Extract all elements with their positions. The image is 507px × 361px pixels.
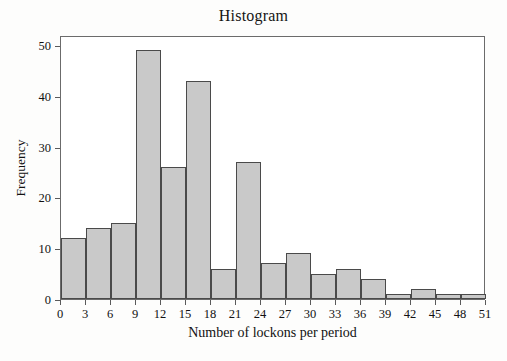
histogram-bar: [111, 223, 136, 299]
x-tick-mark: [185, 300, 186, 305]
x-tick-mark: [85, 300, 86, 305]
x-tick-mark: [110, 300, 111, 305]
plot-frame: [60, 36, 485, 300]
x-tick-label: 27: [279, 307, 292, 322]
x-tick-label: 21: [229, 307, 242, 322]
y-tick-label: 50: [39, 39, 52, 54]
histogram-bar: [136, 50, 161, 299]
histogram-figure: Histogram Frequency 01020304050 03691215…: [0, 0, 507, 361]
x-tick-mark: [160, 300, 161, 305]
x-tick-label: 18: [204, 307, 217, 322]
x-tick-mark: [460, 300, 461, 305]
x-tick-label: 33: [329, 307, 342, 322]
x-tick-mark: [260, 300, 261, 305]
x-tick-mark: [335, 300, 336, 305]
x-tick-label: 48: [454, 307, 467, 322]
x-tick-mark: [410, 300, 411, 305]
histogram-bar: [186, 81, 211, 299]
histogram-bar: [61, 238, 86, 299]
y-tick-label: 20: [39, 191, 52, 206]
x-tick-label: 9: [132, 307, 138, 322]
histogram-bar: [361, 279, 386, 299]
y-tick-label: 40: [39, 89, 52, 104]
x-tick-mark: [285, 300, 286, 305]
x-tick-label: 39: [379, 307, 392, 322]
histogram-bar: [161, 167, 186, 299]
x-tick-mark: [210, 300, 211, 305]
histogram-bar: [311, 274, 336, 299]
y-tick-label: 30: [39, 140, 52, 155]
y-axis: 01020304050: [0, 36, 60, 300]
x-tick-label: 15: [179, 307, 192, 322]
x-tick-mark: [360, 300, 361, 305]
histogram-bar: [86, 228, 111, 299]
x-tick-mark: [310, 300, 311, 305]
y-tick-label: 10: [39, 242, 52, 257]
histogram-bar: [461, 294, 486, 299]
histogram-bar: [261, 263, 286, 299]
x-tick-label: 0: [57, 307, 63, 322]
x-axis: 03691215182124273033363942454851: [60, 300, 485, 324]
x-axis-title: Number of lockons per period: [60, 325, 485, 341]
chart-title: Histogram: [0, 7, 507, 25]
x-tick-label: 45: [429, 307, 442, 322]
x-tick-label: 51: [479, 307, 492, 322]
plot-area: [61, 37, 484, 299]
x-tick-label: 36: [354, 307, 367, 322]
x-tick-mark: [485, 300, 486, 305]
x-tick-label: 24: [254, 307, 267, 322]
x-tick-label: 12: [154, 307, 167, 322]
x-tick-label: 3: [82, 307, 88, 322]
x-tick-mark: [385, 300, 386, 305]
x-tick-label: 42: [404, 307, 417, 322]
histogram-bar: [336, 269, 361, 299]
histogram-bar: [286, 253, 311, 299]
x-tick-label: 30: [304, 307, 317, 322]
y-tick-label: 0: [45, 293, 51, 308]
histogram-bar: [436, 294, 461, 299]
histogram-bar: [236, 162, 261, 299]
histogram-bar: [386, 294, 411, 299]
x-tick-mark: [135, 300, 136, 305]
x-tick-label: 6: [107, 307, 113, 322]
histogram-bar: [211, 269, 236, 299]
histogram-bar: [411, 289, 436, 299]
x-tick-mark: [60, 300, 61, 305]
x-tick-mark: [435, 300, 436, 305]
x-tick-mark: [235, 300, 236, 305]
